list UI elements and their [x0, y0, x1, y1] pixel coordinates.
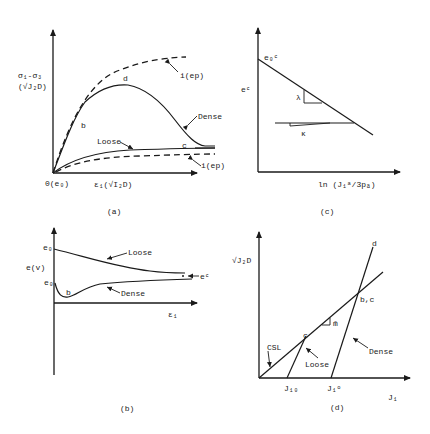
- x-axis-label: ε₁(√I₂D): [94, 180, 132, 189]
- dense-arrow: [107, 287, 120, 293]
- j10-label: J₁₀: [284, 384, 298, 393]
- y-axis-label: e(v): [26, 263, 45, 272]
- slope-label: m̄: [333, 319, 338, 328]
- point-bc: b,c: [360, 295, 375, 304]
- point-c: c: [182, 141, 187, 150]
- ideal-upper-label: i(ep): [180, 71, 204, 80]
- dense-arrow: [188, 116, 197, 125]
- point-c: c: [303, 331, 308, 340]
- loose-path: [287, 336, 306, 378]
- loose-curve: [53, 148, 215, 173]
- ec-point: [182, 275, 184, 277]
- e0-dense-label: e₀: [44, 278, 54, 287]
- lambda-triangle: [304, 90, 322, 103]
- ideal-lower-arrow: [193, 160, 201, 166]
- csl-label: CSL: [267, 343, 282, 352]
- y-axis-label-line1: σ₁-σ₃: [18, 71, 42, 80]
- dense-arrow: [353, 338, 368, 348]
- y-axis-label: eᶜ: [241, 85, 251, 94]
- point-d: d: [372, 239, 377, 248]
- dense-label: Dense: [198, 112, 222, 121]
- loose-arrow: [107, 253, 127, 259]
- x-axis-label: ln (J₁ᵃ/3pₐ): [318, 180, 376, 189]
- loose-curve: [54, 249, 185, 273]
- kappa-label: κ: [301, 129, 306, 138]
- loose-label: Loose: [305, 360, 329, 369]
- caption-d: (d): [330, 403, 344, 412]
- y-axis-label: √J₂D: [232, 256, 251, 265]
- panel-b: eᶜ e₀ e(v) e₀ b Loose Dense ε₁ (b): [26, 228, 210, 413]
- caption-a: (a): [107, 207, 121, 216]
- soil-behavior-diagram: σ₁-σ₃ (√J₂D) 0(e₀) ε₁(√I₂D) d b c i(ep) …: [0, 0, 430, 434]
- panel-c: e₀ᶜ eᶜ λ κ ln (J₁ᵃ/3pₐ) (c): [241, 28, 400, 216]
- panel-a: σ₁-σ₃ (√J₂D) 0(e₀) ε₁(√I₂D) d b c i(ep) …: [18, 30, 225, 216]
- loose-label: Loose: [97, 137, 121, 146]
- loose-arrow: [306, 348, 318, 358]
- ideal-upper-arrow: [170, 64, 178, 72]
- lambda-label: λ: [296, 93, 301, 102]
- loose-arrow: [120, 142, 133, 149]
- ideal-lower-label: i(ep): [201, 161, 225, 170]
- j1o-label: J₁ᵒ: [327, 384, 341, 393]
- point-b: b: [81, 121, 86, 130]
- caption-b: (b): [120, 404, 134, 413]
- dense-path: [331, 247, 373, 378]
- e0-loose-label: e₀: [43, 243, 53, 252]
- ec-label: eᶜ: [200, 272, 210, 281]
- loose-label: Loose: [128, 248, 152, 257]
- x-axis-label: ε₁: [168, 310, 178, 319]
- point-d: d: [123, 74, 128, 83]
- csl-arrow: [268, 351, 270, 367]
- panel-d: √J₂D d b,c m̄ c CSL Loose Dense J₁₀ J₁ᵒ …: [232, 232, 410, 412]
- origin-label: 0(e₀): [45, 179, 69, 188]
- caption-c: (c): [320, 207, 334, 216]
- y-axis-label-line2: (√J₂D): [18, 82, 47, 91]
- intercept-label: e₀ᶜ: [264, 53, 278, 62]
- dense-label: Dense: [121, 289, 145, 298]
- dense-label: Dense: [369, 347, 393, 356]
- ideal-lower-curve: [56, 154, 215, 172]
- x-axis-label: J₁: [388, 393, 398, 402]
- point-b: b: [66, 288, 71, 297]
